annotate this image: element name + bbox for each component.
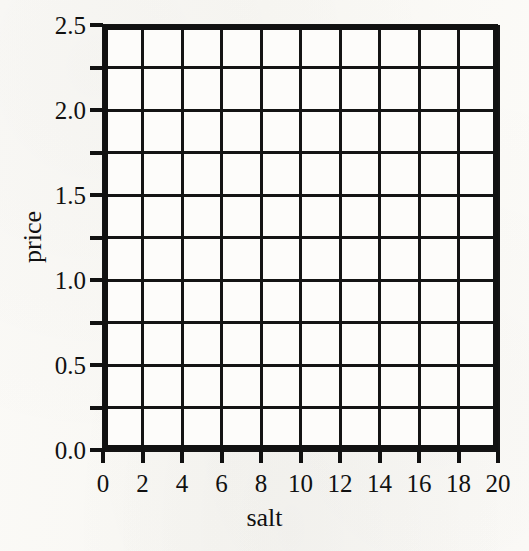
gridline-horizontal bbox=[103, 194, 498, 197]
y-axis-tick bbox=[90, 66, 103, 70]
y-axis-tick-label: 0.0 bbox=[55, 438, 86, 463]
x-axis-tick bbox=[457, 450, 461, 463]
y-axis-tick-label: 1.5 bbox=[55, 183, 86, 208]
x-axis-tick bbox=[417, 450, 421, 463]
x-axis-tick-label: 20 bbox=[486, 471, 511, 496]
chart-figure: 02468101214161820 0.00.51.01.52.02.5 sal… bbox=[0, 0, 529, 551]
x-axis-label: salt bbox=[0, 505, 529, 531]
x-axis-tick-label: 10 bbox=[288, 471, 313, 496]
gridline-horizontal bbox=[103, 364, 498, 367]
x-axis-tick-label: 2 bbox=[136, 471, 149, 496]
gridline-horizontal bbox=[103, 151, 498, 154]
y-axis-tick bbox=[90, 108, 103, 112]
gridline-horizontal bbox=[103, 279, 498, 282]
x-axis-tick-label: 0 bbox=[97, 471, 110, 496]
y-axis-tick bbox=[90, 23, 103, 27]
x-axis-tick-label: 16 bbox=[407, 471, 432, 496]
gridline-horizontal bbox=[103, 236, 498, 239]
y-axis-tick bbox=[90, 363, 103, 367]
x-axis-tick bbox=[299, 450, 303, 463]
x-axis-tick bbox=[496, 450, 500, 463]
y-axis-tick-label: 1.0 bbox=[55, 268, 86, 293]
x-axis-tick bbox=[141, 450, 145, 463]
y-axis-tick-label: 2.5 bbox=[55, 13, 86, 38]
x-axis-tick bbox=[220, 450, 224, 463]
x-axis-tick bbox=[259, 450, 263, 463]
x-axis-tick-label: 4 bbox=[176, 471, 189, 496]
y-axis-label: price bbox=[20, 211, 46, 263]
gridline-horizontal bbox=[103, 406, 498, 409]
y-axis-tick bbox=[90, 236, 103, 240]
x-axis-tick-label: 18 bbox=[446, 471, 471, 496]
x-axis-tick-label: 14 bbox=[367, 471, 392, 496]
x-axis-tick-label: 6 bbox=[215, 471, 228, 496]
x-axis-tick bbox=[378, 450, 382, 463]
y-axis-tick bbox=[90, 448, 103, 452]
gridline-horizontal bbox=[103, 24, 498, 27]
y-axis-tick bbox=[90, 406, 103, 410]
x-axis-tick-label: 8 bbox=[255, 471, 268, 496]
gridline-horizontal bbox=[103, 66, 498, 69]
y-axis-tick-label: 2.0 bbox=[55, 98, 86, 123]
gridline-horizontal bbox=[103, 321, 498, 324]
x-axis-tick bbox=[180, 450, 184, 463]
x-axis-tick-label: 12 bbox=[328, 471, 353, 496]
x-axis-tick bbox=[338, 450, 342, 463]
y-axis-tick-label: 0.5 bbox=[55, 353, 86, 378]
y-axis-tick bbox=[90, 321, 103, 325]
plot-area bbox=[103, 25, 498, 450]
y-axis-tick bbox=[90, 193, 103, 197]
y-axis-tick bbox=[90, 151, 103, 155]
y-axis-tick bbox=[90, 278, 103, 282]
gridline-horizontal bbox=[103, 109, 498, 112]
